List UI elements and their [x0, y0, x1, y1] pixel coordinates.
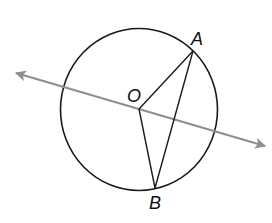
point-label-o: O: [127, 86, 141, 106]
segment-ob: [139, 109, 155, 188]
geometry-diagram: O A B: [0, 0, 272, 223]
point-label-b: B: [149, 193, 161, 213]
point-label-a: A: [190, 29, 203, 49]
line-through-center-with-arrows: [16, 73, 265, 146]
